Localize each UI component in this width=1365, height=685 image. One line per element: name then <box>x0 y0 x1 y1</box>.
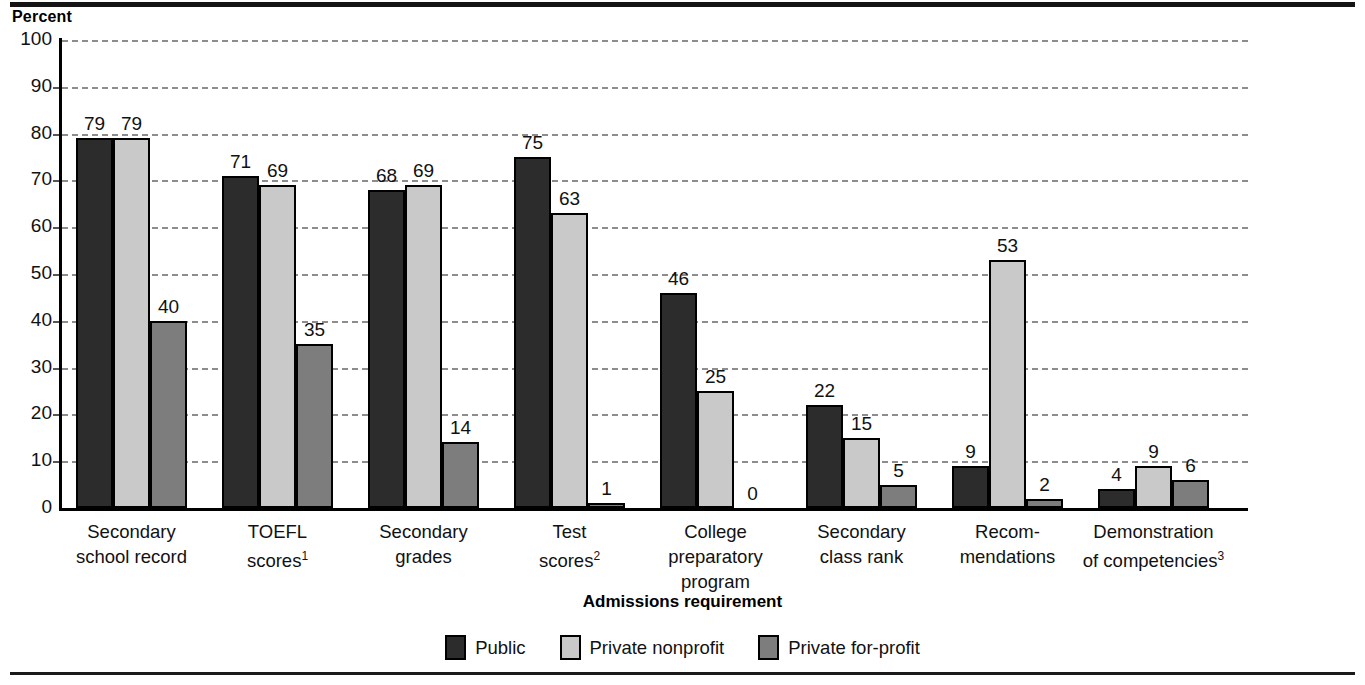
bottom-rule <box>10 672 1355 675</box>
bar-secondary-school-record-private-nonprofit <box>113 138 150 508</box>
legend-swatch-icon <box>758 635 779 660</box>
y-axis-title: Percent <box>12 8 72 26</box>
y-tick-label-40: 40 <box>6 309 52 331</box>
y-axis-tick-labels: 0102030405060708090100 <box>0 40 52 508</box>
bar-toefl-scores-public <box>222 176 259 508</box>
y-tick-label-60: 60 <box>6 215 52 237</box>
bar-secondary-class-rank-private-nonprofit <box>843 438 880 508</box>
bar-value-label: 53 <box>989 235 1026 257</box>
y-tick-label-50: 50 <box>6 262 52 284</box>
bar-value-label: 4 <box>1098 464 1135 486</box>
gridline-80 <box>62 134 1248 136</box>
y-tick-label-30: 30 <box>6 356 52 378</box>
category-label-8: Demonstrationof competencies3 <box>1064 519 1244 573</box>
plot-area: 7979407169356869147563146250221559532496 <box>62 40 1248 508</box>
bar-value-label: 2 <box>1026 474 1063 496</box>
bar-value-label: 15 <box>843 413 880 435</box>
legend-item-private-for-profit[interactable]: Private for-profit <box>758 635 920 660</box>
top-rule <box>10 2 1355 7</box>
gridline-100 <box>62 40 1248 42</box>
category-label-line: program <box>626 569 806 594</box>
bar-value-label: 35 <box>296 319 333 341</box>
x-axis-title: Admissions requirement <box>0 592 1365 612</box>
y-axis-line <box>59 38 62 510</box>
bar-test-scores-public <box>514 157 551 508</box>
category-label-line: of competencies3 <box>1064 544 1244 573</box>
gridline-90 <box>62 87 1248 89</box>
bar-secondary-grades-public <box>368 190 405 508</box>
bar-toefl-scores-private-for-profit <box>296 344 333 508</box>
bar-value-label: 0 <box>734 483 771 505</box>
legend-label: Public <box>475 637 525 659</box>
bar-college-preparatory-program-private-nonprofit <box>697 391 734 508</box>
legend-item-private-nonprofit[interactable]: Private nonprofit <box>560 635 725 660</box>
bar-value-label: 63 <box>551 188 588 210</box>
bar-value-label: 1 <box>588 478 625 500</box>
bar-toefl-scores-private-nonprofit <box>259 185 296 508</box>
bar-college-preparatory-program-public <box>660 293 697 508</box>
y-tick-label-70: 70 <box>6 168 52 190</box>
bar-secondary-grades-private-for-profit <box>442 442 479 508</box>
x-axis-line <box>59 508 1248 511</box>
y-tick-label-80: 80 <box>6 122 52 144</box>
bar-value-label: 9 <box>952 441 989 463</box>
bar-recommendations-private-nonprofit <box>989 260 1026 508</box>
legend-swatch-icon <box>445 635 466 660</box>
bar-value-label: 46 <box>660 268 697 290</box>
bar-value-label: 71 <box>222 151 259 173</box>
category-label-line: Demonstration <box>1064 519 1244 544</box>
bar-secondary-grades-private-nonprofit <box>405 185 442 508</box>
legend: PublicPrivate nonprofitPrivate for-profi… <box>0 635 1365 660</box>
bar-value-label: 22 <box>806 380 843 402</box>
legend-item-public[interactable]: Public <box>445 635 525 660</box>
bar-value-label: 6 <box>1172 455 1209 477</box>
bar-value-label: 79 <box>113 113 150 135</box>
y-tick-label-0: 0 <box>6 496 52 518</box>
bar-value-label: 9 <box>1135 441 1172 463</box>
y-tick-label-100: 100 <box>6 28 52 50</box>
bar-value-label: 14 <box>442 417 479 439</box>
legend-label: Private nonprofit <box>590 637 725 659</box>
y-tick-label-10: 10 <box>6 449 52 471</box>
bar-value-label: 40 <box>150 296 187 318</box>
y-tick-label-20: 20 <box>6 402 52 424</box>
legend-swatch-icon <box>560 635 581 660</box>
bar-secondary-class-rank-private-for-profit <box>880 485 917 508</box>
bar-value-label: 69 <box>405 160 442 182</box>
bar-demonstration-of-competencies-private-nonprofit <box>1135 466 1172 508</box>
bar-value-label: 79 <box>76 113 113 135</box>
bar-test-scores-private-nonprofit <box>551 213 588 508</box>
bar-value-label: 25 <box>697 366 734 388</box>
bar-value-label: 5 <box>880 460 917 482</box>
bar-secondary-school-record-public <box>76 138 113 508</box>
bar-demonstration-of-competencies-private-for-profit <box>1172 480 1209 508</box>
bar-secondary-school-record-private-for-profit <box>150 321 187 508</box>
y-tick-label-90: 90 <box>6 75 52 97</box>
bar-secondary-class-rank-public <box>806 405 843 508</box>
bar-value-label: 69 <box>259 160 296 182</box>
legend-label: Private for-profit <box>788 637 920 659</box>
bar-demonstration-of-competencies-public <box>1098 489 1135 508</box>
bar-recommendations-public <box>952 466 989 508</box>
bar-value-label: 68 <box>368 165 405 187</box>
bar-value-label: 75 <box>514 132 551 154</box>
bar-recommendations-private-for-profit <box>1026 499 1063 508</box>
